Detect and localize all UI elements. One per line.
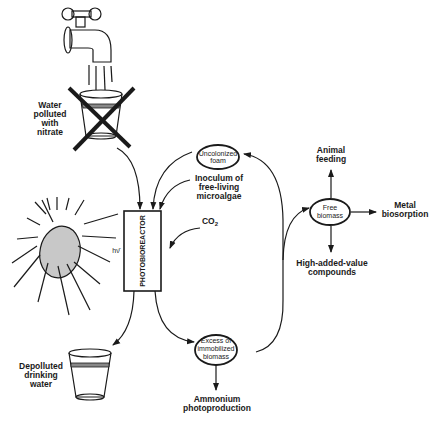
excess-to-foam-arrow (244, 154, 283, 352)
svg-text:PHOTOBIOREACTOR: PHOTOBIOREACTOR (139, 215, 146, 287)
svg-text:compounds: compounds (308, 267, 356, 277)
svg-text:biomass: biomass (317, 212, 344, 219)
free-biomass-node: Free biomass (310, 199, 350, 225)
inoculum-label: Inoculum of free-living microalgae (195, 173, 243, 201)
water-to-reactor-arrow (117, 148, 140, 209)
inoculum-to-reactor-arrow (160, 180, 190, 209)
cross-icon (69, 88, 134, 150)
svg-text:nitrate: nitrate (37, 127, 63, 137)
sun-icon (12, 197, 118, 315)
metal-biosorption-label: Metal biosorption (382, 200, 429, 219)
faucet-icon (62, 8, 112, 90)
svg-text:Uncolonized: Uncolonized (199, 150, 238, 157)
drinking-water-label: Depolluted drinking water (19, 361, 63, 389)
co2-to-reactor-arrow (170, 228, 200, 248)
excess-biomass-node: Excess of immobilized biomass (195, 335, 237, 365)
svg-text:immobilized: immobilized (198, 345, 235, 352)
svg-text:Free: Free (323, 204, 338, 211)
svg-text:biosorption: biosorption (382, 209, 429, 219)
photobioreactor-diagram: Water polluted with nitrate hν̄ (0, 0, 436, 424)
photobioreactor-node: PHOTOBIOREACTOR (124, 211, 161, 291)
uncolonized-foam-node: Uncolonized foam (197, 145, 239, 169)
reactor-to-excess-biomass-arrow (155, 291, 194, 342)
reactor-to-drinking-water-arrow (113, 291, 134, 345)
svg-text:photoproduction: photoproduction (183, 403, 251, 413)
svg-text:biomass: biomass (203, 353, 230, 360)
svg-text:feeding: feeding (316, 154, 346, 164)
co2-label: CO2 (202, 216, 219, 227)
water-polluted-label: Water polluted with nitrate (33, 100, 66, 137)
ammonium-label: Ammonium photoproduction (183, 394, 251, 413)
svg-text:foam: foam (210, 157, 226, 164)
svg-text:Excess of: Excess of (201, 337, 231, 344)
svg-text:microalgae: microalgae (197, 191, 242, 201)
light-label: hν̄ (112, 247, 120, 254)
high-value-compounds-label: High-added-value compounds (296, 258, 368, 277)
clean-glass-icon (69, 349, 111, 400)
loop-to-free-biomass-arrow (283, 208, 309, 260)
svg-text:water: water (29, 379, 53, 389)
animal-feeding-label: Animal feeding (316, 145, 346, 164)
